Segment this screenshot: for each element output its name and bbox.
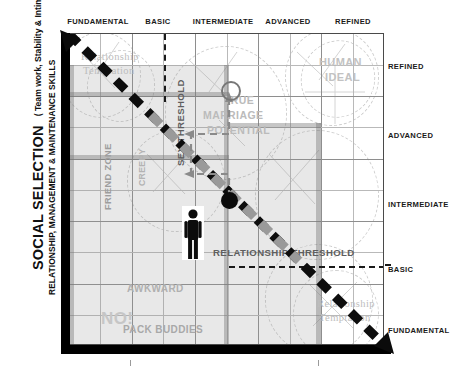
y-axis-label-intermediate: INTERMEDIATE	[388, 200, 449, 209]
relationship-threshold-label: RELATIONSHIP THRESHOLD	[213, 247, 355, 258]
sex-threshold-line	[164, 34, 166, 102]
y-axis-label-advanced: ADVANCED	[388, 131, 433, 140]
region-label-temptation-topleft-line2: Temptation	[83, 65, 135, 76]
y-axis-subtitle-group: RELATIONSHIP, MANAGEMENT & MAINTENANCE S…	[45, 35, 59, 295]
person-figure	[182, 206, 204, 260]
x-axis-label-advanced: ADVANCED	[253, 17, 323, 26]
person-icon	[182, 206, 204, 260]
y-axis-subtitle: RELATIONSHIP, MANAGEMENT & MAINTENANCE S…	[47, 60, 57, 295]
current-state-dot[interactable]	[221, 192, 238, 209]
relationship-threshold-line	[229, 266, 384, 268]
diagonal-arrowhead-topleft	[56, 28, 84, 54]
shaded-region-main	[69, 65, 229, 345]
true-marriage-potential-ring[interactable]	[221, 81, 241, 101]
y-axis-label-refined: REFINED	[388, 62, 424, 71]
band-horizontal-top	[69, 92, 229, 97]
sex-threshold-label: SEX THRESHOLD	[175, 79, 186, 166]
plot-area: FRIEND ZONE CREEPY NO! AWKWARD PACK BUDD…	[68, 33, 384, 345]
diagonal-arrowhead-bottomright	[372, 330, 400, 356]
x-axis-label-refined: REFINED	[318, 17, 388, 26]
region-label-temptation-topleft-line1: Relationship	[81, 51, 139, 62]
y-axis-parenthetical: ( Team work, Stability & Intimacy )	[33, 0, 43, 116]
basic-tick-marker	[385, 264, 391, 266]
x-axis-label-intermediate: INTERMEDIATE	[184, 17, 262, 26]
region-label-creepy: CREEPY	[137, 148, 147, 186]
region-label-true-marriage-line3: POTENTIAL	[207, 124, 270, 136]
x-axis-label-fundamental: FUNDAMENTAL	[58, 17, 138, 26]
shaded-region-upper-right	[229, 127, 321, 345]
region-label-human-ideal-line2: IDEAL	[325, 71, 360, 83]
diagram-canvas: SOCIAL SELECTION ( Team work, Stability …	[0, 0, 456, 379]
region-label-temptation-bottomright-line2: Temptation	[319, 312, 371, 323]
x-axis-tick-2	[318, 360, 319, 366]
region-label-true-marriage-line2: MARRIAGE	[203, 109, 263, 121]
x-axis-bar	[61, 345, 391, 354]
region-label-awkward: AWKWARD	[127, 283, 184, 294]
y-axis-title: SOCIAL SELECTION	[30, 125, 46, 270]
y-axis-label-basic: BASIC	[388, 265, 413, 274]
region-label-friend-zone: FRIEND ZONE	[103, 143, 113, 210]
region-label-temptation-bottomright-line1: Relationship	[317, 298, 375, 309]
region-label-pack-buddies: PACK BUDDIES	[123, 324, 203, 335]
region-label-human-ideal-line1: HUMAN	[319, 56, 362, 68]
y-axis-bar	[61, 33, 70, 345]
x-axis-label-basic: BASIC	[129, 17, 187, 26]
x-axis-tick-1	[130, 360, 131, 366]
band-horizontal-mid	[69, 155, 229, 160]
